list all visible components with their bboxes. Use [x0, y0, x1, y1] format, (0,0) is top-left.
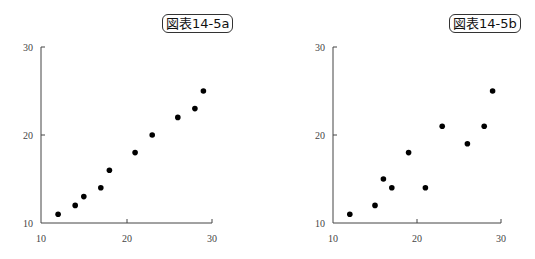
data-point: [389, 185, 395, 191]
scatter-chart-b: 30 20 10 10 20 30: [0, 0, 535, 259]
data-point: [490, 88, 496, 94]
data-point: [372, 203, 378, 209]
y-tick-20: 20: [315, 130, 325, 141]
x-tick-10: 10: [328, 233, 338, 244]
data-point: [347, 211, 353, 217]
data-points: [347, 88, 495, 217]
data-point: [406, 150, 412, 156]
data-point: [481, 123, 487, 129]
y-tick-30: 30: [315, 42, 325, 53]
x-axis: 10 20 30: [328, 219, 506, 244]
y-axis: 30 20 10: [315, 42, 337, 229]
data-point: [381, 176, 387, 182]
x-tick-20: 20: [412, 233, 422, 244]
data-point: [439, 123, 445, 129]
x-tick-30: 30: [496, 233, 506, 244]
y-tick-10: 10: [315, 218, 325, 229]
data-point: [465, 141, 471, 147]
data-point: [423, 185, 429, 191]
